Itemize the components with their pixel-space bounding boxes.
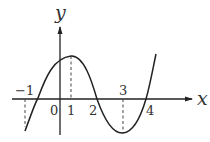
tick-label-two: 2 <box>89 103 97 118</box>
tick-label-one: 1 <box>67 103 75 118</box>
origin-label: 0 <box>50 103 58 118</box>
tick-label-four: 4 <box>146 103 154 118</box>
x-axis-label: x <box>197 87 208 109</box>
function-curve <box>25 54 156 133</box>
tick-label-three: 3 <box>119 83 127 98</box>
function-graph: y x 0 −1 1 2 3 4 <box>0 0 210 142</box>
y-axis-label: y <box>54 1 66 23</box>
tick-label-neg-one: −1 <box>15 83 34 98</box>
